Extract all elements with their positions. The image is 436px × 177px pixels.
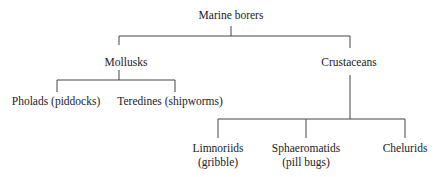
node-limnoriids-line2: (gribble) [192, 155, 243, 169]
node-limnoriids: Limnoriids (gribble) [192, 141, 243, 169]
node-chelurids: Chelurids [383, 141, 428, 155]
classification-tree: Marine borers Mollusks Crustaceans Phola… [0, 0, 436, 177]
node-marine-borers: Marine borers [199, 8, 264, 22]
node-pholads: Pholads (piddocks) [12, 94, 100, 108]
node-sphaeromatids: Sphaeromatids (pill bugs) [272, 141, 340, 169]
node-limnoriids-line1: Limnoriids [192, 141, 243, 155]
node-teredines: Teredines (shipworms) [117, 94, 223, 108]
node-crustaceans: Crustaceans [321, 55, 377, 69]
node-mollusks: Mollusks [105, 55, 148, 69]
node-sphaeromatids-line1: Sphaeromatids [272, 141, 340, 155]
node-sphaeromatids-line2: (pill bugs) [272, 155, 340, 169]
